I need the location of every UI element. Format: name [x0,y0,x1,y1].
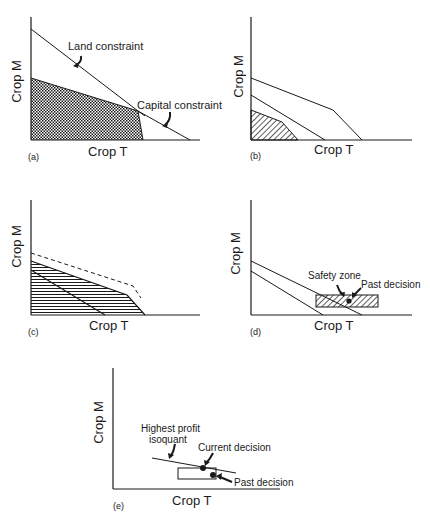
safety-zone-rect-e [178,468,216,479]
y-axis-label-c: Crop M [10,225,23,268]
x-axis-label-a: Crop T [88,145,128,158]
feasible-region-a [31,78,143,140]
past-decision-label-d: Past decision [361,279,420,290]
y-axis-label-e: Crop M [92,401,105,444]
past-decision-label-e: Past decision [234,477,293,488]
panel-c [31,200,200,315]
feasible-region-b [251,110,298,140]
past-decision-dot-e [210,472,216,478]
y-axis-label-a: Crop M [10,60,23,103]
panel-b [251,17,412,140]
arrow-icon [220,477,232,482]
x-axis-label-e: Crop T [172,494,212,507]
current-decision-label: Current decision [198,442,271,453]
panel-label-e: (e) [113,502,124,511]
feasible-region-c [31,261,145,315]
isoquant-label: isoquant [149,434,187,445]
y-axis-label-b: Crop M [232,55,245,98]
arrow-icon [207,453,213,462]
y-axis-label-d: Crop M [229,232,242,275]
x-axis-label-d: Crop T [314,319,354,332]
past-decision-dot [346,298,351,303]
x-axis-label-c: Crop T [89,319,129,332]
panel-d [251,200,412,315]
panel-label-d: (d) [250,328,261,337]
highest-profit-label: Highest profit [141,423,200,434]
panel-label-b: (b) [250,152,261,161]
panel-a [31,17,200,140]
safety-zone-label: Safety zone [308,270,361,281]
arrow-head-icon [216,473,222,480]
x-axis-label-b: Crop T [314,143,354,156]
panel-label-c: (c) [28,328,39,337]
panel-label-a: (a) [28,153,39,162]
land-constraint-label: Land constraint [68,41,143,52]
capital-constraint-label: Capital constraint [137,100,222,111]
